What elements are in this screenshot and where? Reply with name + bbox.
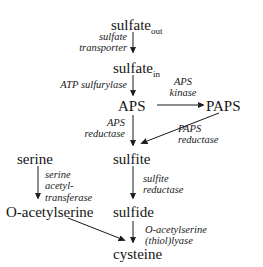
arrow-o-acetylserine-to-cysteine [68, 218, 124, 240]
enzyme-atp-sulfurylase: ATP sulfurylase [27, 79, 127, 90]
enzyme-sulfate-transporter: sulfate transporter [37, 31, 127, 54]
node-serine: serine [17, 152, 53, 167]
enzyme-serine-acetyltransferase-line3: transferase [45, 192, 125, 203]
enzyme-paps-reductase-line1: PAPS [178, 123, 258, 134]
node-aps: APS [118, 99, 146, 114]
node-paps: PAPS [206, 99, 240, 114]
node-aps-label: APS [118, 98, 146, 114]
node-sulfite-label: sulfite [113, 151, 151, 167]
node-sulfite: sulfite [113, 152, 151, 167]
enzyme-oas-thiol-lyase-line2: (thiol)lyase [145, 235, 255, 246]
enzyme-sulfate-transporter-line1: sulfate [37, 31, 127, 42]
enzyme-oas-thiol-lyase-line1: O-acetylserine [145, 224, 255, 235]
node-o-acetylserine: O-acetylserine [6, 205, 93, 220]
enzyme-oas-thiol-lyase: O-acetylserine (thiol)lyase [145, 224, 255, 247]
enzyme-aps-kinase-line2: kinase [159, 87, 207, 98]
pathway-diagram: sulfateout sulfatein APS PAPS serine sul… [0, 0, 263, 267]
node-sulfate-in-label: sulfate [113, 60, 153, 76]
enzyme-sulfite-reductase-line2: reductase [143, 184, 223, 195]
enzyme-serine-acetyltransferase-line2: acetyl- [45, 180, 125, 191]
enzyme-sulfate-transporter-line2: transporter [37, 42, 127, 53]
enzyme-aps-kinase-line1: APS [159, 76, 207, 87]
node-o-acetylserine-label: O-acetylserine [6, 204, 93, 220]
node-cysteine-label: cysteine [113, 246, 162, 262]
enzyme-aps-reductase: APS reductase [52, 117, 125, 140]
node-paps-label: PAPS [206, 98, 240, 114]
enzyme-serine-acetyltransferase: serine acetyl- transferase [45, 169, 125, 203]
node-sulfate-out-subscript: out [151, 26, 163, 36]
enzyme-atp-sulfurylase-line1: ATP sulfurylase [27, 79, 127, 90]
node-cysteine: cysteine [113, 247, 162, 262]
node-serine-label: serine [17, 151, 53, 167]
node-sulfide: sulfide [113, 205, 154, 220]
enzyme-sulfite-reductase-line1: sulfite [143, 173, 223, 184]
enzyme-serine-acetyltransferase-line1: serine [45, 169, 125, 180]
node-sulfide-label: sulfide [113, 204, 154, 220]
enzyme-paps-reductase: PAPS reductase [178, 123, 258, 146]
enzyme-aps-reductase-line2: reductase [52, 128, 125, 139]
node-sulfate-in: sulfatein [113, 61, 160, 79]
enzyme-aps-reductase-line1: APS [52, 117, 125, 128]
enzyme-aps-kinase: APS kinase [159, 76, 207, 99]
enzyme-paps-reductase-line2: reductase [178, 134, 258, 145]
enzyme-sulfite-reductase: sulfite reductase [143, 173, 223, 196]
